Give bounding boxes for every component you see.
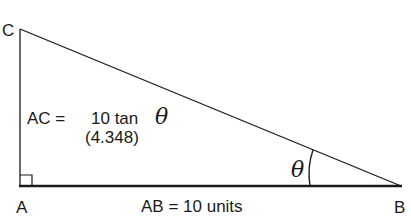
vertex-label-b: B: [394, 198, 405, 217]
ac-expression: 10 tan: [91, 109, 138, 128]
ac-label-prefix: AC =: [27, 109, 65, 128]
right-angle-marker: [20, 175, 32, 186]
angle-arc: [309, 150, 313, 186]
ab-label: AB = 10 units: [141, 197, 243, 216]
ac-value: (4.348): [85, 128, 139, 147]
ac-theta-symbol: θ: [155, 104, 168, 129]
angle-theta-label: θ: [291, 157, 304, 182]
vertex-label-a: A: [16, 198, 28, 217]
triangle-diagram: C A B AC = 10 tan θ (4.348) θ AB = 10 un…: [0, 0, 411, 220]
vertex-label-c: C: [2, 21, 14, 40]
side-cb-hypotenuse: [20, 29, 401, 186]
